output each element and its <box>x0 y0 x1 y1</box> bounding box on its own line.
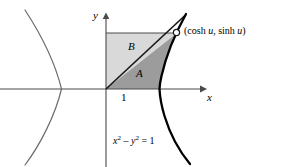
hyperbola-figure: y x 1 B A (cosh u, sinh u) x2 – y2 = 1 <box>0 0 281 167</box>
x-axis-label: x <box>207 92 212 103</box>
point-marker-icon <box>173 29 179 35</box>
point-label-open: (cosh <box>184 25 208 36</box>
left-branch-curve <box>25 10 62 165</box>
equation-equals-one: = 1 <box>139 135 155 146</box>
region-b-label: B <box>128 41 135 52</box>
equation-label: x2 – y2 = 1 <box>113 136 155 146</box>
point-coordinate-label: (cosh u, sinh u) <box>184 26 246 36</box>
point-label-close: ) <box>242 25 245 36</box>
x-tick-label-1: 1 <box>121 92 127 103</box>
y-axis-label: y <box>93 10 98 21</box>
equation-minus: – <box>121 135 131 146</box>
y-axis-arrowhead <box>103 13 110 20</box>
x-axis-arrowhead <box>200 86 207 93</box>
region-a-label: A <box>136 68 143 79</box>
point-label-mid: , sinh <box>213 25 237 36</box>
